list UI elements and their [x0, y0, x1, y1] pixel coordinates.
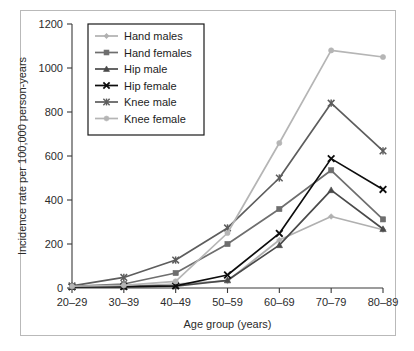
y-tick-label-800: 800	[45, 106, 63, 118]
data-point-marker-diamond	[328, 214, 334, 220]
legend-label: Hip male	[124, 63, 167, 75]
y-tick-label-1200: 1200	[39, 18, 63, 30]
data-point-marker-circle	[277, 140, 282, 145]
y-tick-label-1000: 1000	[39, 62, 63, 74]
data-point-marker-circle	[121, 283, 126, 288]
line-chart: 02004006008001000120020–2930–3940–4950–5…	[0, 0, 414, 351]
x-tick-label-2: 40–49	[160, 296, 191, 308]
legend-label: Knee male	[124, 96, 177, 108]
x-tick-label-4: 60–69	[264, 296, 295, 308]
figure-container: 02004006008001000120020–2930–3940–4950–5…	[0, 0, 414, 351]
legend-label: Hand males	[124, 30, 183, 42]
data-point-marker-asterisk	[380, 147, 387, 154]
data-point-marker-x	[328, 155, 335, 162]
y-tick-label-200: 200	[45, 238, 63, 250]
legend-label: Knee female	[124, 113, 186, 125]
data-point-marker-square	[225, 241, 230, 246]
data-point-marker-circle	[104, 116, 109, 121]
series-line	[72, 190, 383, 287]
data-point-marker-circle	[69, 284, 74, 289]
y-axis-title: Incidence rate per 100,000 person-years	[16, 56, 28, 255]
data-point-marker-square	[277, 206, 282, 211]
y-tick-label-400: 400	[45, 194, 63, 206]
data-point-marker-square	[104, 50, 109, 55]
data-point-marker-asterisk	[328, 100, 335, 107]
data-point-marker-square	[380, 217, 385, 222]
x-tick-label-5: 70–79	[316, 296, 347, 308]
x-tick-label-1: 30–39	[109, 296, 140, 308]
legend-label: Hip female	[124, 80, 177, 92]
data-point-marker-circle	[329, 48, 334, 53]
series-hip-female	[69, 155, 387, 290]
data-point-marker-circle	[225, 230, 230, 235]
y-tick-label-0: 0	[57, 282, 63, 294]
data-point-marker-asterisk	[276, 174, 283, 181]
data-point-marker-circle	[173, 279, 178, 284]
data-point-marker-x	[276, 230, 283, 237]
legend-layer: Hand malesHand femalesHip maleHip female…	[88, 24, 204, 135]
x-tick-label-3: 50–59	[212, 296, 243, 308]
series-line	[72, 159, 383, 287]
x-axis-title: Age group (years)	[183, 318, 271, 330]
data-point-marker-circle	[380, 54, 385, 59]
data-point-marker-square	[173, 270, 178, 275]
data-point-marker-square	[329, 168, 334, 173]
data-point-marker-triangle	[328, 187, 334, 193]
legend-label: Hand females	[124, 47, 192, 59]
x-tick-label-6: 80–89	[368, 296, 399, 308]
data-point-marker-x	[380, 186, 387, 193]
x-tick-label-0: 20–29	[57, 296, 88, 308]
y-tick-label-600: 600	[45, 150, 63, 162]
